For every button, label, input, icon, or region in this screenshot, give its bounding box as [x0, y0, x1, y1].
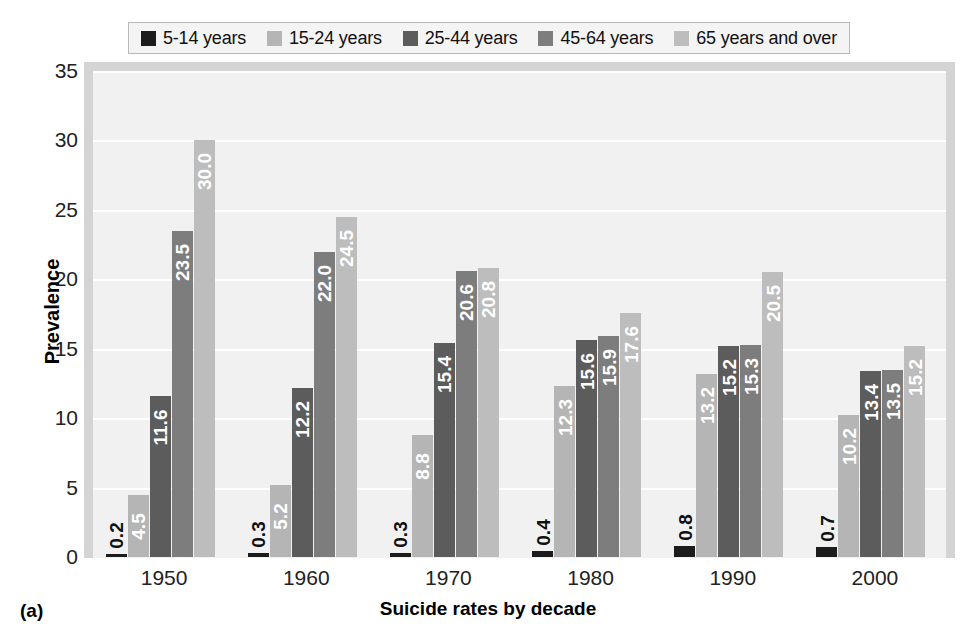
y-axis-tick-label: 0	[48, 545, 78, 569]
gridline	[93, 418, 946, 420]
bar-value-label: 0.4	[533, 520, 552, 546]
bar-value-label: 12.3	[555, 399, 574, 436]
bar: 0.7	[816, 547, 837, 557]
x-axis-tick-label: 1960	[246, 566, 366, 590]
bar-value-label: 4.5	[129, 513, 148, 539]
bar-value-label: 15.9	[599, 349, 618, 386]
bar-value-label: 15.2	[905, 359, 924, 396]
bar-value-label: 13.2	[697, 387, 716, 424]
x-axis-tick-label: 2000	[815, 566, 935, 590]
bar: 8.8	[412, 435, 433, 557]
x-axis-tick-label: 1980	[531, 566, 651, 590]
bar-value-label: 20.5	[763, 285, 782, 322]
bar-value-label: 10.2	[839, 428, 858, 465]
bar: 4.5	[128, 495, 149, 557]
gridline	[93, 71, 946, 73]
legend-swatch-icon	[403, 31, 418, 46]
bar-value-label: 23.5	[173, 244, 192, 281]
legend-swatch-icon	[141, 31, 156, 46]
x-axis-label: Suicide rates by decade	[0, 598, 976, 620]
bar: 0.2	[106, 554, 127, 557]
bar: 10.2	[838, 415, 859, 557]
bar: 15.4	[434, 343, 455, 557]
gridline	[93, 349, 946, 351]
bar-value-label: 20.6	[457, 284, 476, 321]
bar-value-label: 12.2	[293, 401, 312, 438]
y-axis-tick-label: 25	[48, 198, 78, 222]
bar: 0.3	[248, 553, 269, 557]
bar-value-label: 8.8	[413, 453, 432, 479]
bar: 22.0	[314, 252, 335, 557]
bar-value-label: 0.8	[675, 514, 694, 540]
y-axis-tick-label: 35	[48, 59, 78, 83]
bar: 15.6	[576, 340, 597, 557]
bar-value-label: 15.2	[719, 359, 738, 396]
legend-label: 5-14 years	[163, 28, 246, 49]
chart-legend: 5-14 years15-24 years25-44 years45-64 ye…	[128, 22, 850, 54]
gridline	[93, 210, 946, 212]
bar-value-label: 0.3	[391, 521, 410, 547]
bar: 15.3	[740, 345, 761, 557]
y-axis-label: Prevalence	[41, 232, 64, 392]
bar: 13.5	[882, 370, 903, 557]
gridline	[93, 140, 946, 142]
legend-label: 65 years and over	[696, 28, 837, 49]
bar: 12.3	[554, 386, 575, 557]
bar: 30.0	[194, 140, 215, 557]
legend-item: 15-24 years	[267, 28, 382, 49]
bar: 23.5	[172, 231, 193, 557]
legend-label: 25-44 years	[425, 28, 518, 49]
bar-value-label: 17.6	[621, 326, 640, 363]
gridline	[93, 488, 946, 490]
x-axis-tick-label: 1950	[104, 566, 224, 590]
legend-swatch-icon	[538, 31, 553, 46]
bar: 15.9	[598, 336, 619, 557]
bar-value-label: 24.5	[337, 230, 356, 267]
bar-value-label: 30.0	[195, 153, 214, 190]
legend-swatch-icon	[674, 31, 689, 46]
chart-figure: 5-14 years15-24 years25-44 years45-64 ye…	[0, 0, 976, 642]
bar: 5.2	[270, 485, 291, 557]
bar: 0.8	[674, 546, 695, 557]
legend-swatch-icon	[267, 31, 282, 46]
y-axis-tick-label: 30	[48, 128, 78, 152]
x-axis-tick-label: 1990	[673, 566, 793, 590]
y-axis-tick-label: 5	[48, 476, 78, 500]
bar: 11.6	[150, 396, 171, 557]
x-axis-tick-label: 1970	[388, 566, 508, 590]
plot-area	[93, 71, 946, 558]
bar-value-label: 15.3	[741, 358, 760, 395]
legend-label: 45-64 years	[560, 28, 653, 49]
legend-label: 15-24 years	[289, 28, 382, 49]
bar-value-label: 0.3	[249, 521, 268, 547]
bar: 12.2	[292, 388, 313, 557]
bar-value-label: 20.8	[479, 281, 498, 318]
bar: 13.2	[696, 374, 717, 557]
bar-value-label: 22.0	[315, 265, 334, 302]
bar: 15.2	[718, 346, 739, 557]
bar-value-label: 15.6	[577, 353, 596, 390]
bar: 20.8	[478, 268, 499, 557]
bar-value-label: 0.7	[817, 516, 836, 542]
bar-value-label: 11.6	[151, 409, 170, 445]
legend-item: 25-44 years	[403, 28, 518, 49]
legend-item: 45-64 years	[538, 28, 653, 49]
bar: 20.5	[762, 272, 783, 557]
bar: 17.6	[620, 313, 641, 557]
bar-value-label: 0.2	[107, 523, 126, 549]
bar: 13.4	[860, 371, 881, 557]
bar-value-label: 5.2	[271, 503, 290, 529]
gridline	[93, 279, 946, 281]
y-axis-tick-label: 10	[48, 406, 78, 430]
figure-label: (a)	[20, 600, 43, 622]
legend-item: 65 years and over	[674, 28, 837, 49]
bar-value-label: 13.5	[883, 383, 902, 420]
legend-item: 5-14 years	[141, 28, 246, 49]
bar: 24.5	[336, 217, 357, 557]
bar-value-label: 15.4	[435, 356, 454, 393]
bar: 15.2	[904, 346, 925, 557]
bar-value-label: 13.4	[861, 384, 880, 421]
bar: 0.4	[532, 551, 553, 557]
bar: 0.3	[390, 553, 411, 557]
bar: 20.6	[456, 271, 477, 557]
